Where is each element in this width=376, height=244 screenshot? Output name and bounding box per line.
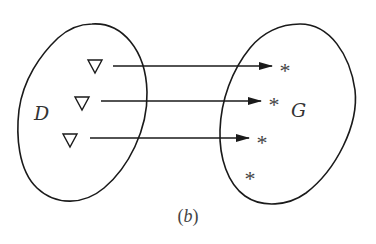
codomain-element-star-icon: * xyxy=(280,58,291,83)
domain-label: D xyxy=(33,102,49,124)
domain-element-triangle-icon xyxy=(63,134,77,147)
codomain-element-star-icon: * xyxy=(245,166,256,191)
domain-element-triangle-icon xyxy=(75,97,89,110)
codomain-element-star-icon: * xyxy=(257,130,268,155)
domain-element-triangle-icon xyxy=(88,60,102,73)
codomain-element-star-icon: * xyxy=(269,92,280,117)
codomain-set-boundary xyxy=(220,24,356,204)
function-mapping-diagram: * * * * D G (b) xyxy=(0,0,376,244)
figure-caption: (b) xyxy=(178,206,199,227)
codomain-label: G xyxy=(291,99,306,121)
